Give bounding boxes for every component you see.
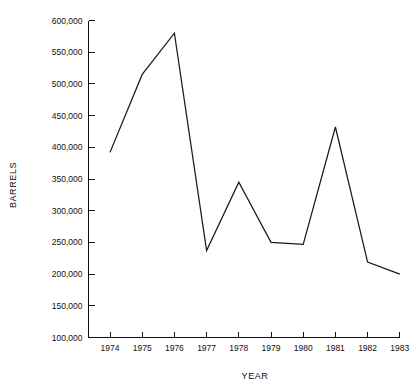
y-axis-tick-label: 400,000 — [52, 142, 83, 152]
x-axis-tick-label: 1982 — [358, 343, 377, 353]
y-axis-tick-marks — [89, 21, 95, 338]
x-axis-tick-label: 1974 — [101, 343, 120, 353]
x-axis-tick-label: 1978 — [229, 343, 248, 353]
y-axis-tick-label: 600,000 — [52, 16, 83, 26]
x-axis-title: YEAR — [242, 371, 269, 381]
y-axis-tick-label: 350,000 — [52, 174, 83, 184]
x-axis-tick-labels: 1974197519761977197819791980198119821983 — [101, 343, 410, 353]
y-axis-tick-label: 200,000 — [52, 269, 83, 279]
line-chart-figure: 100,000150,000200,000250,000300,000350,0… — [0, 0, 416, 387]
x-axis-tick-label: 1980 — [294, 343, 313, 353]
x-axis-tick-label: 1975 — [133, 343, 152, 353]
y-axis-tick-label: 150,000 — [52, 301, 83, 311]
y-axis-tick-label: 550,000 — [52, 47, 83, 57]
x-axis-tick-label: 1979 — [262, 343, 281, 353]
y-axis-tick-label: 250,000 — [52, 237, 83, 247]
chart-canvas: 100,000150,000200,000250,000300,000350,0… — [0, 0, 416, 387]
x-axis-tick-label: 1976 — [165, 343, 184, 353]
y-axis-tick-label: 300,000 — [52, 206, 83, 216]
y-axis-tick-labels: 100,000150,000200,000250,000300,000350,0… — [52, 16, 83, 343]
y-axis-title: BARRELS — [8, 162, 18, 208]
x-axis-tick-label: 1977 — [197, 343, 216, 353]
x-axis-tick-label: 1983 — [390, 343, 409, 353]
barrels-data-line — [110, 33, 400, 274]
x-axis-tick-marks — [110, 332, 400, 338]
y-axis-tick-label: 100,000 — [52, 333, 83, 343]
y-axis-tick-label: 450,000 — [52, 111, 83, 121]
x-axis-tick-label: 1981 — [326, 343, 345, 353]
y-axis-tick-label: 500,000 — [52, 79, 83, 89]
